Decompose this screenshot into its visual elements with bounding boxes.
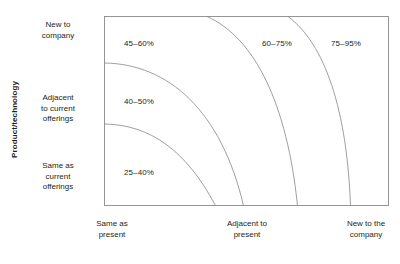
x-axis-category-new-to-the-company: New to thecompany xyxy=(320,219,400,240)
band-label-45-60: 45–60% xyxy=(124,39,154,48)
band-label-25-40: 25–40% xyxy=(124,168,154,177)
band-label-40-50: 40–50% xyxy=(124,97,154,106)
figure-container: PROBABILITY OF FAILURE Product/technolog… xyxy=(0,0,400,264)
x-axis-category-adjacent-to-present: Adjacent topresent xyxy=(201,219,293,240)
band-label-75-95: 75–95% xyxy=(331,39,361,48)
band-label-60-75: 60–75% xyxy=(262,39,292,48)
x-axis-category-same-as-present: Same aspresent xyxy=(66,219,158,240)
